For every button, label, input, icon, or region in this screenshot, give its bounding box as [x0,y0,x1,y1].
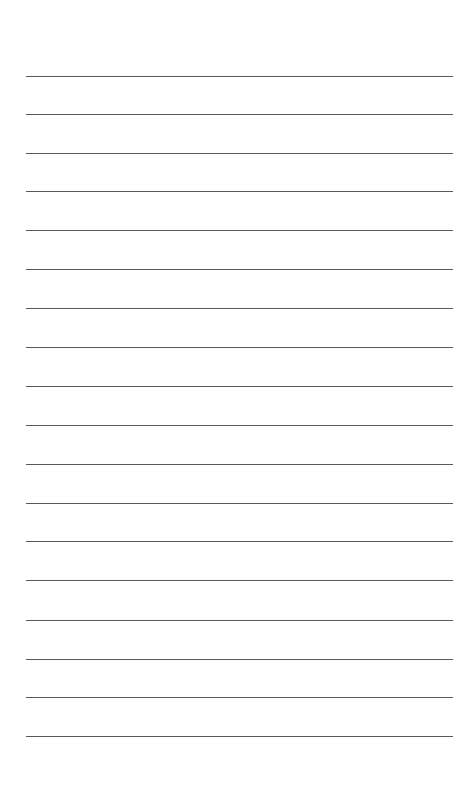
ruled-line [26,541,453,542]
ruled-line [26,736,453,737]
ruled-line [26,503,453,504]
ruled-line [26,697,453,698]
ruled-line [26,425,453,426]
ruled-line [26,308,453,309]
ruled-line [26,347,453,348]
ruled-line [26,464,453,465]
ruled-line [26,153,453,154]
ruled-line [26,114,453,115]
ruled-line [26,580,453,581]
ruled-line [26,269,453,270]
ruled-line [26,76,453,77]
lined-paper-page [0,0,476,791]
ruled-line [26,659,453,660]
ruled-line [26,620,453,621]
ruled-line [26,230,453,231]
ruled-line [26,191,453,192]
ruled-line [26,386,453,387]
